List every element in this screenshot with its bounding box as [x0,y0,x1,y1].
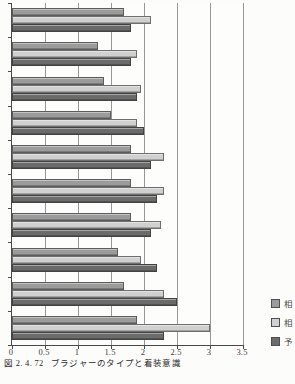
bar [12,256,141,264]
bar [12,187,164,195]
bar [12,42,98,50]
bar-group [12,242,243,276]
legend: 相 相 予 [271,297,293,354]
bar [12,16,151,24]
x-axis-tick-label: 3 [207,347,211,357]
bar [12,316,137,324]
bar [12,161,151,169]
bar-group [12,311,243,345]
bar [12,248,118,256]
bar [12,282,124,290]
y-axis-tick [8,140,11,141]
bar-group [12,174,243,208]
y-axis-tick [8,311,11,312]
y-axis-tick [8,3,11,4]
bar [12,77,104,85]
legend-swatch [271,337,280,346]
bar [12,221,161,229]
figure-caption: 図 2. 4. 72ブラジャーのタイプと着装意識 [4,356,181,368]
bar [12,332,164,340]
y-axis-tick [8,345,11,346]
bar [12,111,111,119]
bar [12,213,131,221]
bar-groups [12,3,243,345]
x-axis-tick-label: 3.5 [236,347,247,357]
bar [12,50,137,58]
bar [12,58,131,66]
bar [12,119,137,127]
chart-plot-area [11,3,243,346]
legend-item: 予 [271,335,293,347]
legend-item: 相 [271,297,293,309]
bar [12,153,164,161]
figure-title: ブラジャーのタイプと着装意識 [51,358,181,368]
bar-group [12,208,243,242]
bar [12,229,151,237]
bar-group [12,3,243,37]
figure: 00.511.522.533.5 相 相 予 図 2. 4. 72ブラジャーのタ… [0,0,295,384]
bar [12,324,210,332]
y-axis-tick [8,37,11,38]
bar [12,93,137,101]
bar [12,24,131,32]
bar [12,145,131,153]
y-axis-tick [8,208,11,209]
bar-group [12,71,243,105]
bar-group [12,140,243,174]
bar [12,85,141,93]
bar [12,298,177,306]
gridline [243,3,244,345]
bar [12,8,124,16]
legend-item: 相 [271,316,293,328]
legend-swatch [271,318,280,327]
legend-label: 相 [284,316,293,328]
bar-group [12,37,243,71]
bar-group [12,106,243,140]
y-axis-tick [8,71,11,72]
bar [12,195,157,203]
y-axis-tick [8,106,11,107]
bar [12,127,144,135]
legend-label: 相 [284,297,293,309]
legend-swatch [271,299,280,308]
y-axis-tick [8,242,11,243]
bar [12,179,131,187]
bar [12,264,157,272]
bar-group [12,277,243,311]
bar [12,290,164,298]
figure-number: 図 2. 4. 72 [4,358,44,368]
y-axis-tick [8,277,11,278]
y-axis-tick [8,174,11,175]
legend-label: 予 [284,335,293,347]
